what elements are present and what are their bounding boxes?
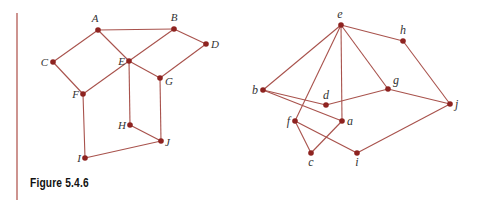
vertex-d <box>323 102 329 108</box>
vertex-label-E: E <box>117 55 125 67</box>
edge-e-a <box>341 25 342 121</box>
vertex-label-C: C <box>41 56 49 68</box>
right-graph: abcdefghij <box>252 7 459 169</box>
edge-d-g <box>326 89 388 105</box>
edge-F-I <box>83 94 85 158</box>
vertex-label-c: c <box>308 155 314 169</box>
vertex-f <box>292 118 298 124</box>
vertex-label-F: F <box>71 88 79 100</box>
edge-E-G <box>129 61 160 78</box>
vertex-label-G: G <box>165 75 173 87</box>
figure-canvas: ABCDEFGHIJ abcdefghij <box>0 0 480 204</box>
vertex-h <box>400 38 406 44</box>
vertex-G <box>157 75 163 81</box>
vertex-a <box>339 118 345 124</box>
edge-B-D <box>174 29 206 44</box>
vertex-A <box>95 27 101 33</box>
vertex-label-i: i <box>355 155 358 169</box>
vertex-j <box>447 101 453 107</box>
edge-E-H <box>129 61 130 125</box>
vertex-label-B: B <box>171 11 178 23</box>
edge-G-J <box>160 78 161 141</box>
edge-b-a <box>263 90 342 121</box>
vertex-F <box>80 91 86 97</box>
vertex-label-H: H <box>117 119 127 131</box>
edge-i-j <box>357 104 450 153</box>
edge-e-h <box>341 25 403 41</box>
edge-e-f <box>295 25 341 121</box>
vertex-label-e: e <box>337 7 343 21</box>
edge-e-g <box>341 25 388 89</box>
vertex-D <box>203 41 209 47</box>
edge-B-E <box>129 29 174 61</box>
vertex-J <box>158 138 164 144</box>
vertex-label-D: D <box>210 38 219 50</box>
edge-e-b <box>263 25 341 90</box>
vertex-E <box>126 58 132 64</box>
vertex-B <box>171 26 177 32</box>
vertex-label-J: J <box>165 136 171 148</box>
vertex-C <box>50 59 56 65</box>
vertex-label-f: f <box>287 114 292 128</box>
vertex-label-b: b <box>252 83 258 97</box>
vertex-label-d: d <box>323 88 330 102</box>
vertex-label-g: g <box>393 73 399 87</box>
edge-I-J <box>85 141 161 158</box>
edge-a-c <box>311 121 342 153</box>
edge-A-B <box>98 29 174 30</box>
vertex-label-h: h <box>400 23 406 37</box>
edge-A-C <box>53 30 98 62</box>
vertex-e <box>338 22 344 28</box>
vertex-label-j: j <box>453 97 459 111</box>
edge-f-c <box>295 121 311 153</box>
vertex-H <box>127 122 133 128</box>
left-graph: ABCDEFGHIJ <box>41 11 219 164</box>
vertex-label-A: A <box>91 12 99 24</box>
figure-caption: Figure 5.4.6 <box>30 176 89 190</box>
vertex-label-I: I <box>76 152 82 164</box>
vertex-I <box>82 155 88 161</box>
vertex-b <box>260 87 266 93</box>
vertex-g <box>385 86 391 92</box>
edge-H-J <box>130 125 161 141</box>
edge-D-G <box>160 44 206 78</box>
vertex-label-a: a <box>347 114 353 128</box>
